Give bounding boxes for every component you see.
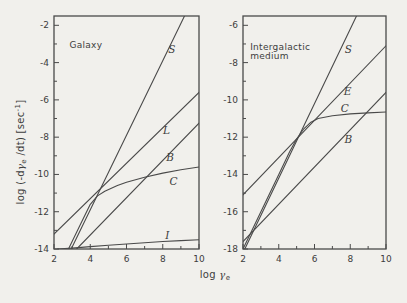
curve-B bbox=[243, 92, 386, 241]
dual-panel-energy-loss-chart: 246810-2-4-6-8-10-12-14GalaxySLBCI246810… bbox=[0, 0, 407, 303]
y-tick-label: -6 bbox=[40, 95, 49, 105]
gamma-subscript: e bbox=[226, 274, 231, 282]
y-tick-label: -12 bbox=[223, 132, 238, 142]
figure-canvas: 246810-2-4-6-8-10-12-14GalaxySLBCI246810… bbox=[0, 0, 407, 303]
y-axis-ticks: -2-4-6-8-10-12-14 bbox=[34, 20, 59, 254]
curve-label-C: C bbox=[341, 102, 349, 114]
x-tick-label: 6 bbox=[312, 254, 318, 264]
x-tick-label: 10 bbox=[380, 254, 392, 264]
x-axis-ticks: 246810 bbox=[51, 244, 205, 264]
x-tick-label: 10 bbox=[193, 254, 205, 264]
y-tick-label: -16 bbox=[223, 207, 238, 217]
y-label-mid: /dt) [sec bbox=[15, 111, 26, 159]
gamma-subscript: e bbox=[20, 159, 28, 164]
y-tick-label: -8 bbox=[229, 58, 238, 68]
y-tick-label: -10 bbox=[34, 169, 49, 179]
y-tick-label: -18 bbox=[223, 244, 238, 254]
x-tick-label: 4 bbox=[276, 254, 282, 264]
y-axis-ticks: -6-8-10-12-14-16-18 bbox=[223, 20, 248, 254]
panel-igm: 246810-6-8-10-12-14-16-18Intergalacticme… bbox=[223, 16, 392, 264]
y-tick-label: -14 bbox=[223, 169, 238, 179]
curve-label-S: S bbox=[345, 43, 352, 55]
curve-L bbox=[54, 92, 199, 234]
sec-exponent: -1 bbox=[14, 104, 22, 112]
x-axis-label: log γe bbox=[200, 269, 231, 282]
gamma-symbol: γ bbox=[15, 164, 26, 170]
x-tick-label: 2 bbox=[240, 254, 246, 264]
curve-label-L: L bbox=[162, 124, 170, 136]
y-label-suffix: ] bbox=[15, 100, 26, 104]
plot-frame bbox=[54, 16, 199, 249]
curve-I bbox=[58, 240, 199, 249]
panel-title: Intergalacticmedium bbox=[250, 42, 310, 62]
curve-label-S: S bbox=[168, 43, 175, 55]
curve-labels: SLBCI bbox=[162, 43, 178, 241]
x-tick-label: 6 bbox=[124, 254, 130, 264]
x-axis-ticks: 246810 bbox=[240, 244, 392, 264]
y-axis-label: log (-dγe /dt) [sec-1] bbox=[14, 21, 28, 283]
curves bbox=[54, 16, 199, 249]
panel-title-line: Intergalactic bbox=[250, 42, 310, 52]
curve-label-B: B bbox=[344, 133, 353, 145]
x-tick-label: 8 bbox=[160, 254, 166, 264]
x-tick-label: 8 bbox=[347, 254, 353, 264]
x-tick-label: 4 bbox=[87, 254, 93, 264]
curve-B bbox=[77, 123, 199, 249]
curve-label-I: I bbox=[164, 229, 170, 241]
x-label-text: log bbox=[200, 269, 220, 280]
curve-label-E: E bbox=[343, 85, 352, 97]
curve-label-B: B bbox=[165, 151, 174, 163]
y-tick-label: -12 bbox=[34, 207, 49, 217]
y-tick-label: -4 bbox=[40, 58, 49, 68]
panel-galaxy: 246810-2-4-6-8-10-12-14GalaxySLBCI bbox=[34, 16, 205, 264]
curve-C bbox=[243, 112, 386, 249]
panel-title-line: medium bbox=[250, 51, 289, 61]
panel-title-line: Galaxy bbox=[69, 40, 102, 50]
x-tick-label: 2 bbox=[51, 254, 57, 264]
y-tick-label: -10 bbox=[223, 95, 238, 105]
panel-title: Galaxy bbox=[69, 40, 102, 50]
curve-label-C: C bbox=[170, 175, 178, 187]
y-label-text: log (-d bbox=[15, 170, 26, 204]
y-tick-label: -14 bbox=[34, 244, 49, 254]
y-tick-label: -2 bbox=[40, 20, 49, 30]
y-tick-label: -6 bbox=[229, 20, 238, 30]
y-tick-label: -8 bbox=[40, 132, 49, 142]
